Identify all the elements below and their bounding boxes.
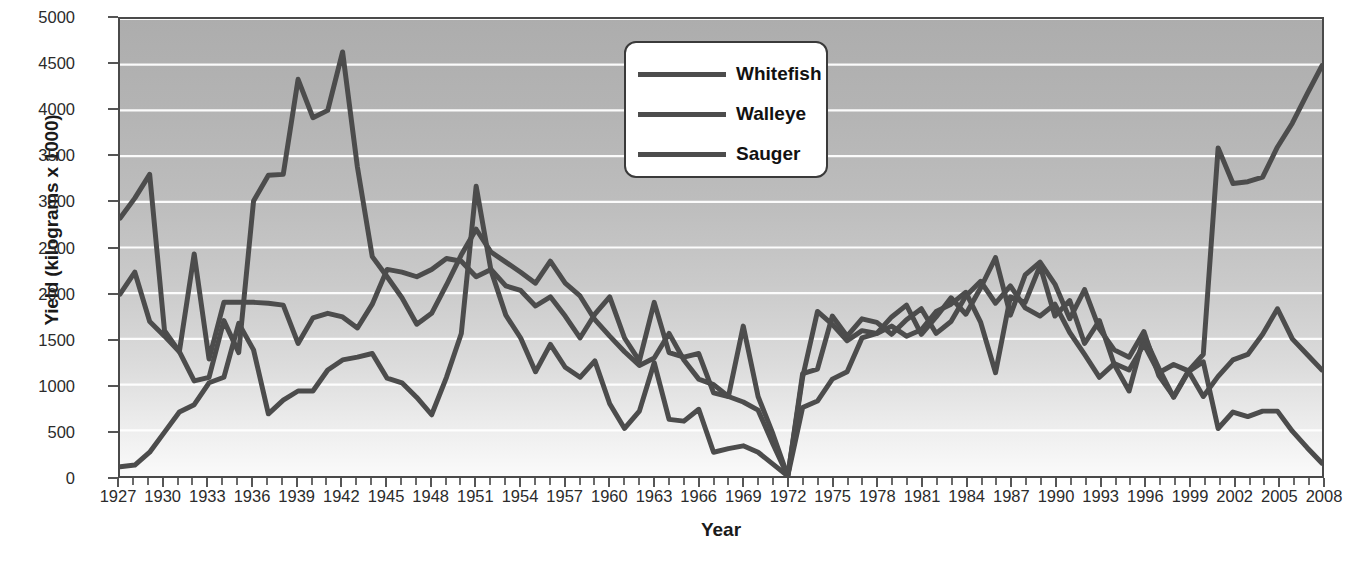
y-tick-mark <box>108 154 118 156</box>
x-tick-mark <box>772 478 774 485</box>
x-tick-mark <box>861 478 863 485</box>
x-tick-mark <box>236 478 238 485</box>
y-tick-label: 3000 <box>15 192 75 211</box>
x-tick-mark <box>921 478 923 487</box>
x-tick-mark <box>325 478 327 485</box>
x-tick-mark <box>847 478 849 485</box>
y-tick-label: 500 <box>15 423 75 442</box>
y-tick-mark <box>108 385 118 387</box>
y-tick-mark <box>108 108 118 110</box>
y-tick-label: 5000 <box>15 8 75 27</box>
legend-item-whitefish[interactable]: Whitefish <box>638 54 814 94</box>
x-tick-mark <box>400 478 402 485</box>
y-tick-mark <box>108 339 118 341</box>
legend-swatch-whitefish <box>638 72 726 77</box>
x-tick-mark <box>132 478 134 485</box>
x-tick-mark <box>1070 478 1072 485</box>
x-tick-mark <box>698 478 700 487</box>
y-tick-label: 1500 <box>15 331 75 350</box>
legend-swatch-sauger <box>638 152 726 157</box>
x-tick-mark <box>593 478 595 485</box>
x-tick-mark <box>162 478 164 487</box>
x-tick-mark <box>936 478 938 485</box>
x-tick-mark <box>340 478 342 487</box>
x-tick-mark <box>1293 478 1295 485</box>
x-tick-mark <box>534 478 536 485</box>
x-tick-mark <box>1174 478 1176 485</box>
x-tick-mark <box>177 478 179 485</box>
legend-item-walleye[interactable]: Walleye <box>638 94 814 134</box>
y-tick-label: 2500 <box>15 239 75 258</box>
x-tick-mark <box>1219 478 1221 485</box>
x-tick-mark <box>1234 478 1236 487</box>
x-tick-mark <box>1055 478 1057 487</box>
y-tick-label: 3500 <box>15 146 75 165</box>
x-tick-mark <box>385 478 387 487</box>
x-tick-mark <box>1025 478 1027 485</box>
x-tick-mark <box>221 478 223 485</box>
x-tick-mark <box>549 478 551 485</box>
x-tick-mark <box>981 478 983 485</box>
x-tick-mark <box>683 478 685 485</box>
chart-legend: Whitefish Walleye Sauger <box>624 41 828 178</box>
x-tick-mark <box>608 478 610 487</box>
legend-label-walleye: Walleye <box>736 103 806 125</box>
y-tick-mark <box>108 293 118 295</box>
x-tick-mark <box>1144 478 1146 487</box>
legend-label-whitefish: Whitefish <box>736 63 822 85</box>
x-tick-mark <box>1249 478 1251 485</box>
x-tick-mark <box>653 478 655 487</box>
x-tick-mark <box>504 478 506 485</box>
x-tick-mark <box>832 478 834 487</box>
x-tick-mark <box>311 478 313 485</box>
x-tick-mark <box>564 478 566 487</box>
x-tick-mark <box>742 478 744 487</box>
x-tick-mark <box>638 478 640 485</box>
legend-swatch-walleye <box>638 112 726 117</box>
y-tick-mark <box>108 62 118 64</box>
x-tick-mark <box>802 478 804 485</box>
x-tick-mark <box>1189 478 1191 487</box>
x-tick-mark <box>1115 478 1117 485</box>
y-tick-mark <box>108 247 118 249</box>
x-tick-mark <box>1100 478 1102 487</box>
y-tick-label: 2000 <box>15 285 75 304</box>
y-tick-label: 1000 <box>15 377 75 396</box>
x-tick-mark <box>906 478 908 485</box>
x-tick-mark <box>266 478 268 485</box>
x-tick-mark <box>445 478 447 485</box>
x-tick-mark <box>579 478 581 485</box>
x-tick-mark <box>966 478 968 487</box>
x-tick-mark <box>430 478 432 487</box>
x-axis-title: Year <box>118 519 1324 541</box>
y-tick-label: 0 <box>15 469 75 488</box>
x-tick-mark <box>1278 478 1280 487</box>
x-tick-mark <box>117 478 119 487</box>
x-tick-mark <box>370 478 372 485</box>
x-tick-mark <box>281 478 283 485</box>
legend-label-sauger: Sauger <box>736 143 800 165</box>
x-tick-mark <box>459 478 461 485</box>
series-line-walleye <box>120 254 1322 476</box>
x-tick-mark <box>1263 478 1265 485</box>
x-tick-mark <box>995 478 997 485</box>
x-tick-mark <box>251 478 253 487</box>
x-tick-label: 2008 <box>1292 487 1356 506</box>
x-tick-mark <box>489 478 491 485</box>
x-tick-mark <box>1159 478 1161 485</box>
y-tick-mark <box>108 16 118 18</box>
x-tick-mark <box>1323 478 1325 487</box>
legend-item-sauger[interactable]: Sauger <box>638 134 814 174</box>
x-tick-mark <box>147 478 149 485</box>
y-tick-label: 4500 <box>15 54 75 73</box>
x-tick-mark <box>951 478 953 485</box>
x-tick-mark <box>206 478 208 487</box>
x-tick-mark <box>191 478 193 485</box>
x-tick-mark <box>519 478 521 487</box>
x-tick-mark <box>891 478 893 485</box>
y-tick-mark <box>108 200 118 202</box>
x-tick-mark <box>876 478 878 487</box>
x-tick-mark <box>1129 478 1131 485</box>
x-tick-mark <box>1010 478 1012 487</box>
x-tick-mark <box>474 478 476 487</box>
